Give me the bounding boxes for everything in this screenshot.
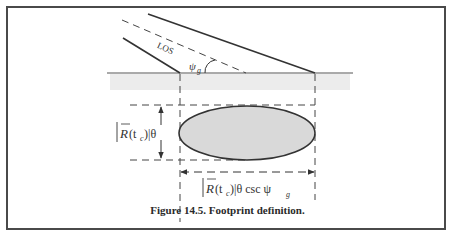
grazing-angle-symbol: ψ xyxy=(189,60,196,72)
grazing-angle-subscript: g xyxy=(197,66,201,75)
svg-text:R: R xyxy=(205,181,214,196)
ground-band xyxy=(110,74,350,90)
los-line xyxy=(122,20,246,73)
footprint-ellipse xyxy=(179,106,315,160)
height-label: R (t c )|θ xyxy=(117,122,156,143)
svg-text:(t: (t xyxy=(215,182,223,196)
width-label: R (t c )|θ csc ψ g xyxy=(203,178,290,199)
svg-text:)|θ csc ψ: )|θ csc ψ xyxy=(230,182,271,196)
svg-text:g: g xyxy=(286,190,290,199)
figure-caption: Figure 14.5. Footprint definition. xyxy=(0,204,455,216)
svg-text:)|θ: )|θ xyxy=(144,127,156,141)
los-label: LOS xyxy=(156,40,176,56)
svg-text:(t: (t xyxy=(129,127,137,141)
svg-text:R: R xyxy=(119,126,128,141)
beam-upper-edge xyxy=(148,14,315,73)
grazing-angle-arc xyxy=(205,60,215,73)
